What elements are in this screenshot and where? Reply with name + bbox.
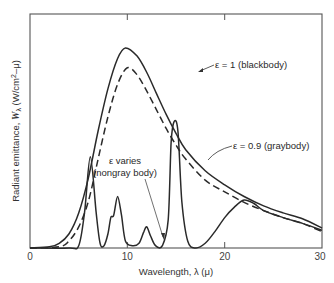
leader-graybody: [208, 146, 232, 160]
x-tick-label-30: 30: [314, 251, 326, 262]
x-tick-label-20: 20: [219, 251, 231, 262]
annotation-graybody: ε = 0.9 (graybody): [233, 140, 309, 151]
x-tick-label-10: 10: [122, 251, 134, 262]
plot-frame: [30, 14, 322, 248]
annotation-nongray-line2: (nongray body): [93, 167, 157, 178]
y-axis-label-prefix: Radiant emittance,: [10, 120, 21, 202]
x-axis-label: Wavelength, λ (μ): [139, 266, 213, 277]
emittance-chart: 0 10 20 30 Wavelength, λ (μ) Radiant emi…: [0, 0, 334, 283]
graybody-curve: [30, 68, 322, 248]
arrowhead-blackbody: [198, 68, 203, 72]
annotation-nongray-line1: ε varies: [109, 155, 141, 166]
annotation-blackbody: ε = 1 (blackbody): [215, 59, 287, 70]
y-axis-label-units-end: –μ): [10, 60, 21, 74]
y-axis-label-units: (W/cm: [10, 78, 21, 108]
y-axis-label: Radiant emittance, Wλ (W/cm2–μ): [10, 60, 22, 202]
x-tick-label-0: 0: [27, 251, 33, 262]
